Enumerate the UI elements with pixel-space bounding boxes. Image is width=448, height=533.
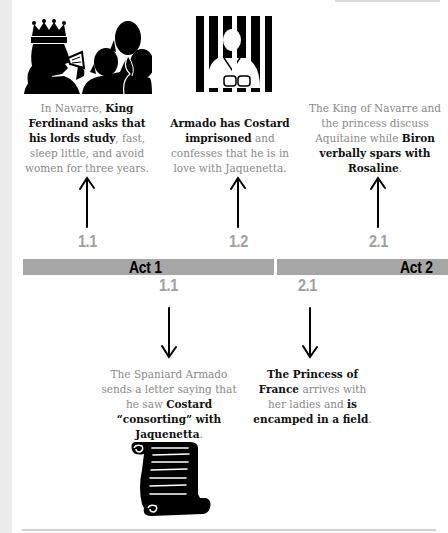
event-above-1-2: Armado has Costard imprisoned and confes… [170, 116, 290, 176]
top-divider [335, 0, 440, 2]
bottom-divider [22, 529, 436, 531]
act-1-label: Act 1 [129, 259, 162, 275]
event-text-plain: . [368, 413, 371, 425]
scene-label-1-1-below: 1.1 [159, 276, 178, 296]
event-text-plain: . [199, 428, 202, 440]
arrow-up-icon [79, 176, 95, 228]
scene-label-2-1-below: 2.1 [298, 276, 317, 296]
arrow-up-icon [370, 176, 386, 228]
arrow-up-icon [230, 176, 246, 228]
scene-label-1-2-above: 1.2 [229, 232, 248, 252]
event-above-2-1: The King of Navarre and the princess dis… [306, 101, 444, 176]
event-below-1-1: The Spaniard Armado sends a letter sayin… [100, 367, 238, 442]
event-below-2-1: The Princess of France arrives with her … [250, 367, 375, 427]
event-text-plain: . [399, 162, 402, 174]
act-2-bar: Act 2 [277, 259, 448, 275]
arrow-down-icon [161, 307, 177, 359]
event-text-plain: In Navarre, [41, 102, 106, 114]
event-above-1-1: In Navarre, King Ferdinand asks that his… [22, 101, 152, 176]
act-1-bar: Act 1 [23, 259, 274, 275]
prisoner-behind-bars-icon [194, 14, 274, 94]
scroll-letter-icon [122, 438, 212, 518]
act-2-label: Act 2 [400, 259, 433, 275]
arrow-down-icon [302, 307, 318, 359]
king-and-lords-icon [24, 10, 152, 94]
scene-label-2-1-above: 2.1 [369, 232, 388, 252]
page-margin-strip [0, 0, 12, 533]
scene-label-1-1-above: 1.1 [78, 232, 97, 252]
